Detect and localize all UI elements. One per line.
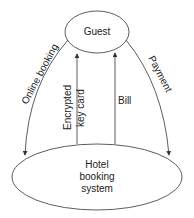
hotel-label-2: booking — [79, 171, 114, 182]
hotel-label-1: Hotel — [85, 159, 108, 170]
payment-label: Payment — [146, 54, 174, 94]
key-card-label-1: Encrypted — [62, 85, 73, 130]
context-diagram: Guest Hotel booking system Online bookin… — [0, 0, 194, 218]
key-card-label-2: key card — [75, 89, 86, 127]
bill-label: Bill — [118, 95, 131, 106]
guest-node: Guest — [65, 11, 129, 53]
hotel-label-3: system — [81, 183, 113, 194]
hotel-node: Hotel booking system — [12, 144, 182, 210]
guest-label: Guest — [84, 26, 111, 37]
online-booking-label: Online booking — [19, 42, 60, 106]
